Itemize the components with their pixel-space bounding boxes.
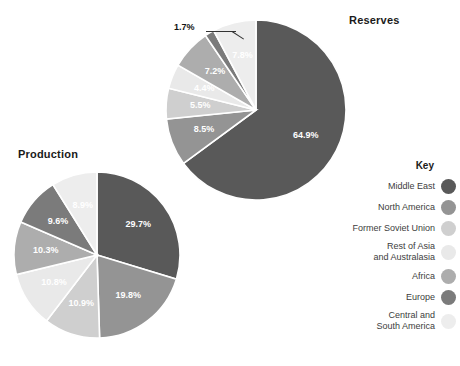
production-pie-chart: 29.7%19.8%10.9%10.8%10.3%9.6%8.9%: [12, 170, 182, 340]
legend-color-swatch: [441, 221, 456, 236]
pie-slice-label: 5.5%: [190, 100, 211, 110]
legend-item[interactable]: Former Soviet Union: [330, 220, 456, 236]
pie-slice-label: 10.3%: [33, 245, 59, 255]
pie-slice-label: 7.2%: [205, 66, 226, 76]
reserves-pie-svg: 64.9%8.5%5.5%4.4%7.2%7.8%: [164, 18, 348, 202]
legend-color-swatch: [441, 245, 456, 260]
production-pie-svg: 29.7%19.8%10.9%10.8%10.3%9.6%8.9%: [12, 170, 182, 340]
pie-slice-label: 10.8%: [41, 277, 67, 287]
pie-slice-label: 8.9%: [73, 200, 94, 210]
pie-slice-label: 8.5%: [194, 124, 215, 134]
legend-color-swatch: [441, 179, 456, 194]
legend: Key Middle EastNorth AmericaFormer Sovie…: [330, 160, 456, 337]
legend-color-swatch: [441, 314, 456, 329]
legend-item[interactable]: Europe: [330, 289, 456, 305]
legend-color-swatch: [441, 269, 456, 284]
legend-item-label: Middle East: [388, 181, 441, 192]
pie-slice-label: 10.9%: [69, 298, 95, 308]
reserves-pie-chart: 64.9%8.5%5.5%4.4%7.2%7.8%: [164, 18, 348, 202]
legend-item-label: North America: [378, 202, 441, 213]
chart-canvas: Reserves 64.9%8.5%5.5%4.4%7.2%7.8% 1.7% …: [0, 0, 460, 366]
legend-title: Key: [330, 160, 456, 171]
legend-item-label: Europe: [406, 292, 441, 303]
legend-item[interactable]: Middle East: [330, 178, 456, 194]
pie-slice-label: 64.9%: [293, 130, 319, 140]
pie-slice-label: 7.8%: [232, 50, 253, 60]
legend-color-swatch: [441, 200, 456, 215]
legend-item[interactable]: Central and South America: [330, 310, 456, 332]
legend-item[interactable]: North America: [330, 199, 456, 215]
pie-slice-label: 9.6%: [48, 216, 69, 226]
production-chart-title: Production: [18, 148, 78, 160]
legend-item-label: Central and South America: [376, 310, 441, 332]
legend-item[interactable]: Rest of Asia and Australasia: [330, 241, 456, 263]
legend-rows: Middle EastNorth AmericaFormer Soviet Un…: [330, 178, 456, 332]
reserves-europe-callout-label: 1.7%: [174, 22, 195, 32]
production-slice-group: [14, 172, 180, 338]
legend-item[interactable]: Africa: [330, 268, 456, 284]
legend-item-label: Rest of Asia and Australasia: [373, 241, 441, 263]
legend-item-label: Africa: [412, 271, 441, 282]
pie-slice-label: 29.7%: [126, 219, 152, 229]
reserves-chart-title: Reserves: [349, 14, 400, 26]
legend-item-label: Former Soviet Union: [352, 223, 441, 234]
pie-slice-label: 4.4%: [194, 83, 215, 93]
pie-slice-label: 19.8%: [116, 290, 142, 300]
legend-color-swatch: [441, 290, 456, 305]
